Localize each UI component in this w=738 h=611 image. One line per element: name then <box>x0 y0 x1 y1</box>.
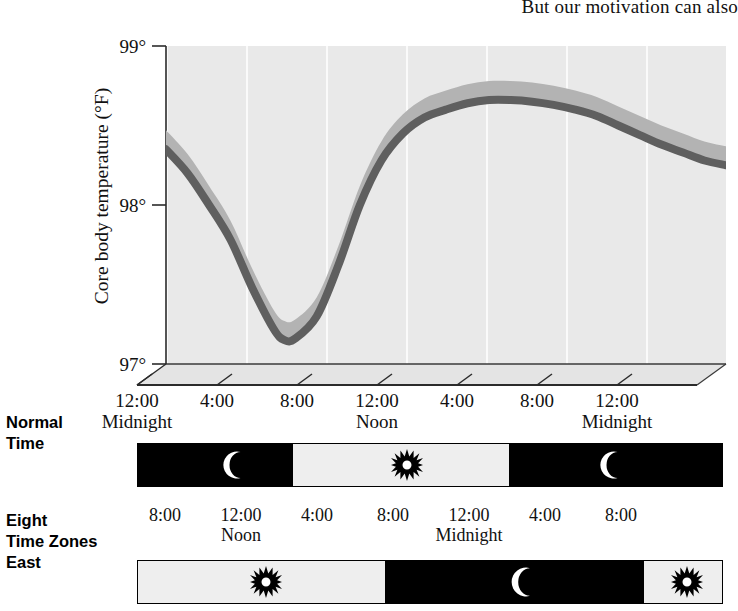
page-body-text: But our motivation can also <box>0 0 738 16</box>
gridline-16h <box>486 46 488 364</box>
x-tick-label-8: 8:00 <box>257 390 337 412</box>
axis-floor <box>137 364 726 385</box>
daynight-bar-normal-time <box>137 443 723 487</box>
plot-area <box>166 46 726 364</box>
moon-icon-3 <box>488 561 558 603</box>
x-tick-marks <box>137 374 632 385</box>
axis-floor-right-edge <box>697 364 726 385</box>
gridline-12h <box>406 46 408 364</box>
gridline-20h <box>566 46 568 364</box>
row2-tick-label-3: 8:00 <box>355 505 431 526</box>
x-tick-label-16: 4:00 <box>417 390 497 412</box>
row2-tick-label-5: 4:00 <box>507 505 583 526</box>
x-tick-label-12: 12:00 Noon <box>337 390 417 432</box>
moon-icon <box>199 444 269 486</box>
gridline-4h <box>246 46 248 364</box>
gridline-0h <box>166 46 168 364</box>
row2-tick-label-6: 8:00 <box>583 505 659 526</box>
page-body-text-line: But our motivation can also <box>522 0 738 16</box>
y-tick-label-99: 99° <box>86 36 146 58</box>
sun-icon-3 <box>652 561 722 603</box>
sun-icon-2 <box>231 561 301 603</box>
y-tick-label-97: 97° <box>86 354 146 376</box>
x-tick-label-24: 12:00 Midnight <box>577 390 657 432</box>
y-tick-label-98: 98° <box>86 195 146 217</box>
row2-tick-label-1: 12:00 Noon <box>203 505 279 545</box>
row-label-normal-time: Normal Time <box>6 412 63 454</box>
gridline-8h <box>326 46 328 364</box>
daynight-bar-eight-zones-east <box>137 560 723 604</box>
row-label-eight-time-zones-east: Eight Time Zones East <box>6 510 97 573</box>
x-tick-label-4: 4:00 <box>177 390 257 412</box>
x-tick-label-0: 12:00 Midnight <box>97 390 177 432</box>
gridline-24h <box>646 46 648 364</box>
row2-tick-label-2: 4:00 <box>279 505 355 526</box>
figure-root: But our motivation can also Core body te… <box>0 0 738 611</box>
sun-icon <box>372 444 442 486</box>
moon-icon-2 <box>576 444 646 486</box>
row2-tick-label-4: 12:00 Midnight <box>431 505 507 545</box>
x-tick-label-20: 8:00 <box>497 390 577 412</box>
row2-tick-label-0: 8:00 <box>127 505 203 526</box>
